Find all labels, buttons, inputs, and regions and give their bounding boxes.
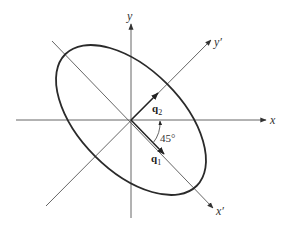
x-prime-axis	[52, 41, 213, 208]
q1-label: q1	[151, 152, 161, 167]
x-axis-label: x	[269, 113, 276, 127]
diagram-canvas: y x y′ x′ q2 q1 45°	[0, 0, 289, 227]
angle-arc	[153, 121, 160, 143]
y-axis-label: y	[126, 9, 133, 23]
x-prime-axis-label: x′	[215, 204, 224, 218]
angle-label: 45°	[160, 132, 175, 144]
y-prime-axis-label: y′	[213, 35, 222, 49]
q2-label: q2	[152, 102, 162, 117]
